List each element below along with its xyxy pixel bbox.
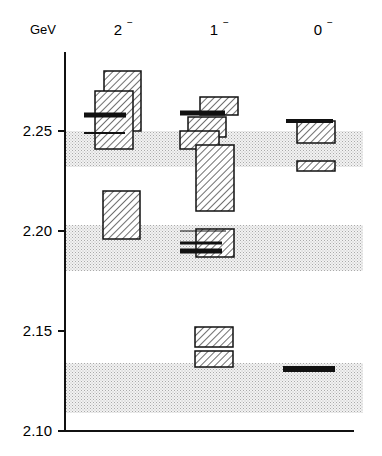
column-label: 0 — [314, 21, 322, 38]
box-0- — [297, 161, 335, 171]
parity-superscript: − — [327, 17, 333, 28]
y-tick-label: 2.25 — [23, 122, 52, 139]
y-tick-label: 2.20 — [23, 222, 52, 239]
parity-superscript: − — [223, 17, 229, 28]
level-line-1- — [180, 231, 226, 232]
column-label: 2 — [114, 21, 122, 38]
y-unit-label: GeV — [30, 22, 56, 37]
level-chart: 2.102.152.202.25 GeV 2−1−0− — [0, 0, 382, 456]
y-tick-label: 2.15 — [23, 322, 52, 339]
box-1- — [195, 327, 233, 347]
y-tick-label: 2.10 — [23, 422, 52, 439]
level-line-1- — [180, 249, 222, 254]
box-1- — [196, 145, 234, 211]
box-1- — [195, 351, 233, 367]
level-line-1- — [180, 111, 225, 116]
level-line-2- — [84, 132, 125, 134]
column-labels: 2−1−0− — [114, 17, 333, 38]
box-2- — [95, 91, 133, 149]
box-2- — [103, 191, 140, 239]
level-line-0- — [286, 119, 333, 123]
level-line-0- — [283, 366, 335, 372]
y-ticks: 2.102.152.202.25 — [23, 122, 65, 439]
level-line-1- — [180, 242, 222, 245]
box-0- — [297, 121, 335, 143]
column-label: 1 — [210, 21, 218, 38]
level-line-2- — [84, 113, 126, 118]
parity-superscript: − — [127, 17, 133, 28]
